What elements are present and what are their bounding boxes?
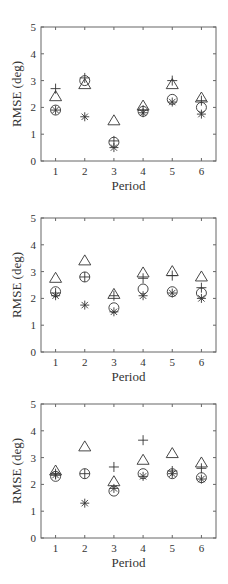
y-tick-label: 4 (31, 239, 37, 251)
series-plus (51, 271, 207, 301)
y-tick-label: 3 (31, 75, 37, 87)
y-axis-label: RMSE (deg) (9, 61, 24, 127)
x-tick-label: 6 (199, 356, 205, 368)
x-tick-label: 1 (53, 165, 59, 177)
axes-box (41, 404, 216, 538)
x-tick-label: 5 (170, 356, 176, 368)
axes-box (41, 218, 216, 352)
series-plus (51, 73, 207, 146)
x-tick-label: 6 (199, 542, 205, 554)
series-circle (51, 76, 207, 148)
x-tick-label: 3 (111, 165, 117, 177)
y-tick-label: 1 (31, 128, 37, 140)
x-tick-label: 5 (170, 165, 176, 177)
x-tick-label: 4 (140, 165, 146, 177)
subplot-1: 012345123456PeriodRMSE (deg) (0, 0, 228, 195)
y-tick-label: 5 (31, 21, 37, 33)
scatter-plot: 012345123456PeriodRMSE (deg) (0, 195, 228, 386)
x-axis-label: Period (112, 555, 146, 570)
y-tick-label: 5 (31, 398, 37, 410)
y-tick-label: 2 (31, 101, 37, 113)
series-triangle (50, 255, 208, 299)
y-axis-label: RMSE (deg) (9, 438, 24, 504)
series-triangle (50, 79, 208, 125)
y-tick-label: 2 (31, 292, 37, 304)
scatter-plot: 012345123456PeriodRMSE (deg) (0, 386, 228, 584)
x-tick-label: 3 (111, 356, 117, 368)
y-tick-label: 1 (31, 505, 37, 517)
subplot-2: 012345123456PeriodRMSE (deg) (0, 195, 228, 386)
series-triangle (50, 441, 208, 486)
y-tick-label: 3 (31, 452, 37, 464)
x-tick-label: 6 (199, 165, 205, 177)
series-asterisk (51, 98, 206, 153)
x-tick-label: 1 (53, 542, 59, 554)
series-circle (51, 272, 207, 313)
y-tick-label: 0 (31, 155, 37, 167)
y-tick-label: 2 (31, 478, 37, 490)
series-circle (51, 469, 207, 496)
y-tick-label: 0 (31, 532, 37, 544)
series-asterisk (51, 469, 206, 507)
scatter-plot: 012345123456PeriodRMSE (deg) (0, 0, 228, 195)
axes-box (41, 27, 216, 161)
x-axis-label: Period (112, 369, 146, 384)
x-tick-label: 3 (111, 542, 117, 554)
y-tick-label: 1 (31, 319, 37, 331)
x-tick-label: 4 (140, 356, 146, 368)
x-axis-label: Period (112, 178, 146, 193)
y-tick-label: 5 (31, 212, 37, 224)
y-tick-label: 3 (31, 266, 37, 278)
subplot-3: 012345123456PeriodRMSE (deg) (0, 386, 228, 584)
x-tick-label: 2 (82, 165, 88, 177)
x-tick-label: 5 (170, 542, 176, 554)
y-tick-label: 4 (31, 48, 37, 60)
x-tick-label: 1 (53, 356, 59, 368)
x-tick-label: 2 (82, 356, 88, 368)
y-axis-label: RMSE (deg) (9, 252, 24, 318)
y-tick-label: 0 (31, 346, 37, 358)
y-tick-label: 4 (31, 425, 37, 437)
series-plus (51, 435, 207, 479)
x-tick-label: 4 (140, 542, 146, 554)
series-asterisk (51, 289, 206, 317)
x-tick-label: 2 (82, 542, 88, 554)
